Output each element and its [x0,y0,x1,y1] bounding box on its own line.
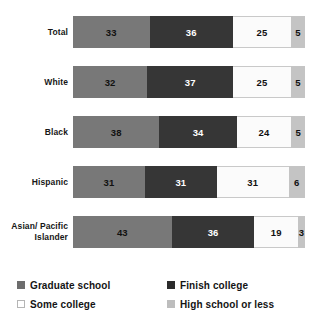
legend-item-finish-college: Finish college [167,278,248,292]
legend-label: Finish college [180,280,248,291]
chart-legend: Graduate school Finish college Some coll… [0,276,325,320]
bar-black: 38 34 24 5 [73,116,305,148]
segment-some-college: 25 [233,16,291,48]
table-row: Hispanic 31 31 31 6 [0,166,325,198]
chart-plot-area: Total 33 36 25 5 White 32 37 25 5 [0,0,325,268]
bar-white: 32 37 25 5 [73,66,305,98]
legend-swatch-icon [17,281,25,289]
category-label-white: White [0,77,73,88]
segment-finish-college: 34 [159,116,236,148]
table-row: White 32 37 25 5 [0,66,325,98]
category-label-asian-pacific-islander: Asian/ Pacific Islander [0,221,73,242]
legend-label: High school or less [180,299,274,310]
table-row: Asian/ Pacific Islander 43 36 19 3 [0,216,325,248]
stacked-bar-chart: Total 33 36 25 5 White 32 37 25 5 [0,0,325,323]
segment-some-college: 24 [237,116,292,148]
legend-swatch-icon [167,300,175,308]
segment-some-college: 31 [217,166,289,198]
bar-asian-pacific-islander: 43 36 19 3 [73,216,305,248]
segment-graduate-school: 32 [73,66,147,98]
segment-graduate-school: 38 [73,116,159,148]
category-label-line2: Islander [35,232,68,242]
category-label-line1: Black [45,127,68,137]
segment-some-college: 25 [233,66,291,98]
segment-high-school-or-less: 6 [289,166,305,198]
table-row: Total 33 36 25 5 [0,16,325,48]
segment-finish-college: 36 [150,16,234,48]
category-label-line1: White [44,77,68,87]
category-label-line1: Hispanic [32,177,68,187]
segment-high-school-or-less: 3 [298,216,305,248]
category-label-line1: Total [48,27,68,37]
bar-hispanic: 31 31 31 6 [73,166,305,198]
segment-high-school-or-less: 5 [291,16,305,48]
category-label-black: Black [0,127,73,138]
legend-swatch-icon [17,300,25,308]
category-label-line1: Asian/ Pacific [11,221,68,231]
legend-label: Some college [30,299,96,310]
legend-item-graduate-school: Graduate school [17,278,110,292]
legend-item-some-college: Some college [17,297,96,311]
segment-high-school-or-less: 5 [291,66,305,98]
bar-total: 33 36 25 5 [73,16,305,48]
legend-swatch-icon [167,281,175,289]
legend-label: Graduate school [30,280,110,291]
segment-high-school-or-less: 5 [291,116,305,148]
category-label-hispanic: Hispanic [0,177,73,188]
segment-some-college: 19 [254,216,298,248]
category-label-total: Total [0,27,73,38]
table-row: Black 38 34 24 5 [0,116,325,148]
legend-item-high-school-or-less: High school or less [167,297,274,311]
segment-graduate-school: 33 [73,16,150,48]
segment-graduate-school: 31 [73,166,145,198]
segment-graduate-school: 43 [73,216,172,248]
segment-finish-college: 37 [147,66,233,98]
segment-finish-college: 31 [145,166,217,198]
segment-finish-college: 36 [172,216,255,248]
